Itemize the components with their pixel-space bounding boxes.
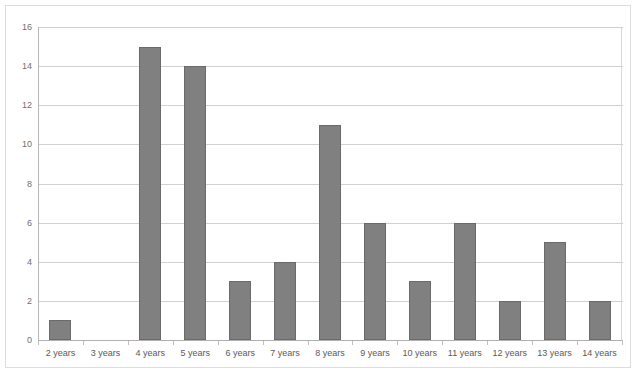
x-axis-tick [487,341,488,345]
x-axis-tick-label: 8 years [308,348,353,359]
x-axis-tick [397,341,398,345]
bar [589,301,611,340]
bar-chart: 0246810121416 2 years3 years4 years5 yea… [0,0,636,373]
bar [184,66,206,340]
bar [319,125,341,340]
x-axis-tick [532,341,533,345]
y-axis-tick-label: 12 [2,100,32,110]
x-axis-tick-label: 5 years [173,348,218,359]
x-axis-tick-label: 9 years [352,348,397,359]
x-axis-tick-label: 13 years [532,348,577,359]
x-axis-tick-label: 7 years [263,348,308,359]
x-axis-tick [622,341,623,345]
x-axis-tick [128,341,129,345]
bars-group [38,27,622,340]
x-axis-tick [218,341,219,345]
x-axis-tick-label: 3 years [83,348,128,359]
chart-screenshot: 0246810121416 2 years3 years4 years5 yea… [0,0,636,373]
bar [544,242,566,340]
bar [499,301,521,340]
y-axis-tick-label: 2 [2,296,32,306]
bar [409,281,431,340]
x-axis-tick [38,341,39,345]
bar [364,223,386,340]
y-axis-tick-label: 6 [2,218,32,228]
x-axis-tick [308,341,309,345]
x-axis-tick-label: 11 years [442,348,487,359]
y-axis-tick-label: 16 [2,22,32,32]
y-axis-tick-label: 0 [2,335,32,345]
bar [49,320,71,340]
x-axis-tick-label: 2 years [38,348,83,359]
x-axis-tick-label: 6 years [218,348,263,359]
bar [454,223,476,340]
x-axis-tick [442,341,443,345]
x-axis-tick [83,341,84,345]
x-axis-tick-label: 12 years [487,348,532,359]
x-axis-tick-label: 10 years [397,348,442,359]
x-axis-tick [173,341,174,345]
bar [139,47,161,340]
bar [229,281,251,340]
x-axis-tick-label: 14 years [577,348,622,359]
y-axis-tick-label: 14 [2,61,32,71]
y-axis-tick-label: 10 [2,139,32,149]
x-axis-tick [263,341,264,345]
x-axis-tick [352,341,353,345]
x-axis-tick [577,341,578,345]
x-axis-line [38,340,622,341]
x-axis-tick-label: 4 years [128,348,173,359]
bar [274,262,296,340]
y-axis-tick-label: 8 [2,179,32,189]
y-axis-tick-label: 4 [2,257,32,267]
